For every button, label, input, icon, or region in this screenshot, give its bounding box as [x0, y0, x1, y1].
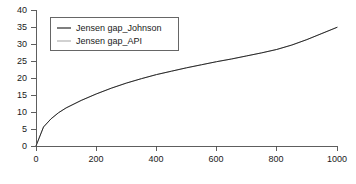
x-tick-label: 1000 [327, 154, 347, 164]
y-tick-label: 5 [22, 124, 27, 134]
x-tick-label: 400 [148, 154, 163, 164]
legend-label-jensen-gap-johnson: Jensen gap_Johnson [76, 23, 162, 33]
y-tick-label: 10 [17, 107, 27, 117]
y-tick-label: 20 [17, 73, 27, 83]
y-tick-label: 40 [17, 5, 27, 15]
x-tick-label: 800 [268, 154, 283, 164]
x-tick-label: 200 [88, 154, 103, 164]
chart-legend: Jensen gap_Johnson Jensen gap_API [50, 17, 178, 50]
y-tick-label: 35 [17, 22, 27, 32]
x-tick-label: 600 [208, 154, 223, 164]
y-tick-label: 25 [17, 56, 27, 66]
x-tick-label: 0 [33, 154, 38, 164]
y-tick-label: 15 [17, 90, 27, 100]
chart-figure: 40 35 30 25 20 15 10 5 0 0 200 400 600 8… [0, 0, 356, 184]
y-tick-label: 30 [17, 39, 27, 49]
line-chart: 40 35 30 25 20 15 10 5 0 0 200 400 600 8… [0, 0, 356, 184]
legend-label-jensen-gap-api: Jensen gap_API [76, 36, 142, 46]
y-tick-label: 0 [22, 141, 27, 151]
